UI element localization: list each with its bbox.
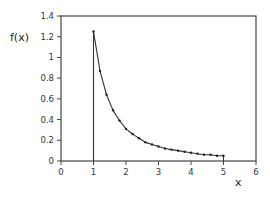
y-tick-label: 0.6 — [40, 94, 54, 104]
data-point — [209, 154, 211, 156]
data-point — [183, 150, 185, 152]
y-tick-label: 0.8 — [40, 73, 54, 83]
data-point — [99, 70, 101, 72]
data-point — [157, 145, 159, 147]
y-axis: 00.20.40.60.811.21.4 — [40, 11, 61, 166]
data-point — [125, 128, 127, 130]
data-point — [138, 137, 140, 139]
x-axis: 0123456 — [58, 161, 258, 177]
x-tick-label: 6 — [253, 167, 258, 177]
y-tick-label: 0.2 — [40, 135, 54, 145]
data-point — [170, 148, 172, 150]
data-point — [118, 119, 120, 121]
x-tick-label: 5 — [221, 167, 226, 177]
data-point — [164, 147, 166, 149]
y-tick-label: 0.4 — [40, 115, 54, 125]
data-point — [112, 109, 114, 111]
x-tick-label: 4 — [188, 167, 193, 177]
y-axis-title: f(x) — [10, 31, 29, 44]
data-series — [92, 30, 224, 161]
chart: 00.20.40.60.811.21.4 0123456 f(x) x — [0, 0, 270, 200]
data-point — [216, 155, 218, 157]
data-point — [196, 153, 198, 155]
data-point — [131, 133, 133, 135]
y-tick-label: 1.4 — [40, 11, 54, 21]
x-axis-title: x — [235, 176, 242, 189]
data-point — [105, 94, 107, 96]
y-tick-label: 0 — [49, 156, 54, 166]
x-tick-label: 2 — [123, 167, 128, 177]
series-line — [94, 32, 224, 156]
x-tick-label: 1 — [91, 167, 96, 177]
x-tick-label: 3 — [156, 167, 161, 177]
data-point — [151, 143, 153, 145]
y-tick-label: 1.2 — [40, 32, 54, 42]
plot-frame — [61, 16, 256, 161]
data-point — [144, 141, 146, 143]
data-point — [92, 30, 94, 32]
x-tick-label: 0 — [58, 167, 63, 177]
data-point — [203, 154, 205, 156]
data-point — [222, 155, 224, 157]
data-point — [190, 152, 192, 154]
y-tick-label: 1 — [49, 52, 54, 62]
plot-border — [61, 16, 256, 161]
data-point — [177, 149, 179, 151]
